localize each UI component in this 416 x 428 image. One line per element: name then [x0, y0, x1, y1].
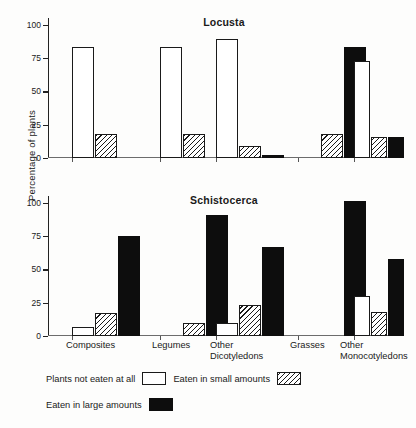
y-tick [43, 336, 48, 337]
x-tick [354, 158, 355, 162]
x-axis-label: Other Monocotyledons [340, 340, 408, 362]
bar-hatch [371, 137, 387, 158]
bar-black [388, 259, 404, 336]
y-tick-label: 100 [27, 20, 41, 29]
legend-row-2: Eaten in large amounts [46, 398, 180, 411]
panel-locusta: Locusta 0255075100 [48, 18, 400, 158]
panel-schistocerca: Schistocerca 0255075100 [48, 196, 400, 336]
y-tick [43, 158, 48, 159]
x-axis-label: Grasses [290, 340, 325, 351]
x-tick [72, 158, 73, 162]
bar-white [160, 47, 182, 158]
bar-black [388, 137, 404, 158]
legend-label-small-amounts: Eaten in small amounts [173, 374, 270, 384]
legend-swatch-black [149, 398, 173, 411]
legend-label-large-amounts: Eaten in large amounts [46, 400, 142, 410]
bar-black [206, 215, 228, 336]
chart-figure: Percentage of plants Locusta 0255075100 … [0, 0, 416, 428]
x-axis-label: Legumes [152, 340, 190, 351]
y-tick-label: 25 [32, 298, 41, 307]
y-axis-title: Percentage of plants [26, 81, 37, 231]
x-axis-label: Other Dicotyledons [210, 340, 263, 362]
plot-area-locusta: 0255075100 [48, 18, 400, 158]
bar-white [216, 323, 238, 336]
bar-hatch [183, 134, 205, 158]
x-tick [160, 158, 161, 162]
y-tick [43, 269, 48, 270]
legend-swatch-hatched [277, 372, 301, 385]
x-tick [298, 158, 299, 162]
bar-hatch [239, 146, 261, 158]
y-tick [43, 303, 48, 304]
bar-hatch [371, 312, 387, 336]
bar-white [72, 327, 94, 336]
bar-white [216, 39, 238, 158]
legend-row-1: Plants not eaten at all Eaten in small a… [46, 372, 308, 385]
x-axis-labels: CompositesLegumesOther DicotyledonsGrass… [0, 340, 416, 370]
y-tick-label: 50 [32, 87, 41, 96]
y-tick-label: 100 [27, 198, 41, 207]
y-tick-label: 75 [32, 54, 41, 63]
y-tick-label: 50 [32, 265, 41, 274]
bar-white [354, 61, 370, 158]
y-axis-line [48, 18, 49, 158]
y-tick [43, 203, 48, 204]
bar-black [262, 155, 284, 158]
y-tick [43, 58, 48, 59]
bar-white [72, 47, 94, 158]
bar-black [262, 247, 284, 336]
bar-hatch [321, 134, 343, 158]
y-tick [43, 125, 48, 126]
x-axis-label: Composites [66, 340, 115, 351]
y-tick-label: 0 [36, 154, 41, 163]
y-axis-line [48, 196, 49, 336]
legend-label-not-eaten: Plants not eaten at all [46, 374, 135, 384]
y-tick [43, 236, 48, 237]
y-tick [43, 25, 48, 26]
bar-hatch [183, 323, 205, 336]
bar-hatch [95, 134, 117, 158]
legend-swatch-white [142, 372, 166, 385]
bar-black [118, 236, 140, 336]
bar-hatch [95, 313, 117, 336]
y-tick-label: 75 [32, 232, 41, 241]
y-tick-label: 0 [36, 332, 41, 341]
plot-area-schistocerca: 0255075100 [48, 196, 400, 336]
y-tick-label: 25 [32, 120, 41, 129]
x-tick [216, 158, 217, 162]
bar-hatch [239, 305, 261, 336]
y-tick [43, 91, 48, 92]
bar-white [354, 296, 370, 336]
